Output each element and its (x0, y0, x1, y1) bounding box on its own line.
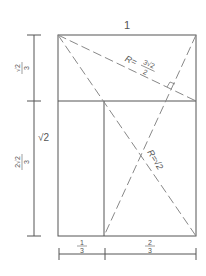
left-whole-label: √2 (38, 132, 49, 143)
bottom-right-fraction: 2 3 (145, 239, 155, 254)
left-lower-fraction: 2√2 3 (14, 154, 30, 170)
diagonal-top-left-to-right-mid (58, 35, 196, 101)
bottom-left-fraction: 1 3 (77, 239, 87, 254)
upper-radius-denominator: 2 (142, 68, 149, 76)
bottom-right-denominator: 3 (148, 247, 152, 254)
left-lower-denominator: 3 (23, 160, 30, 164)
diagram-canvas: 1 √2 3 √2 2√2 3 1 3 2 3 R= 3√2 2 R=√2 (0, 0, 206, 276)
lower-radius-label: R=√2 (145, 148, 165, 172)
left-lower-numerator: 2√2 (14, 156, 21, 168)
left-upper-denominator: 3 (23, 66, 30, 70)
left-upper-fraction: √2 3 (14, 62, 30, 74)
diagonal-top-left-to-bottom-right (58, 35, 196, 236)
upper-radius-prefix: R= (123, 53, 138, 67)
bottom-right-numerator: 2 (148, 239, 152, 246)
bottom-left-numerator: 1 (80, 239, 84, 246)
top-width-label: 1 (124, 19, 130, 31)
left-upper-numerator: √2 (14, 64, 21, 72)
bottom-left-denominator: 3 (80, 247, 84, 254)
lower-radius-text: R=√2 (145, 148, 165, 172)
